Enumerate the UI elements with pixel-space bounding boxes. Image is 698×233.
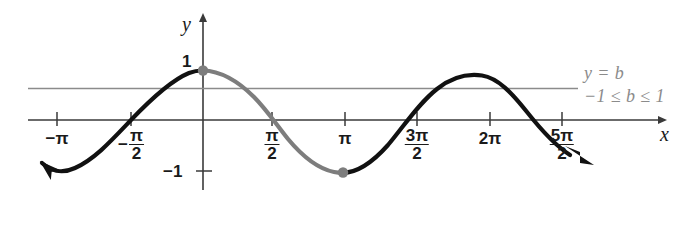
principal-end-point: [338, 167, 348, 177]
y-tick-label-negative-one: −1: [163, 163, 182, 180]
x-tick-label-neg-pi: −π: [46, 130, 69, 147]
denominator-two: 2: [264, 145, 279, 162]
principal-start-point: [198, 65, 208, 75]
minus-sign: −: [118, 136, 128, 153]
x-axis-label: x: [660, 124, 669, 144]
x-tick-label-pi: π: [338, 130, 351, 147]
x-tick-label-neg-half-pi: − π 2: [118, 127, 144, 163]
line-equation-label: y = b: [584, 64, 624, 82]
cosine-curve-right-black: [343, 75, 570, 173]
neg-half-pi-fraction: − π 2: [118, 127, 144, 163]
x-tick-label-two-pi: 2π: [479, 130, 501, 147]
numerator-pi: π: [129, 127, 144, 145]
three-half-pi-fraction: 3π 2: [405, 127, 429, 163]
numerator-five-pi: 5π: [550, 127, 574, 145]
graph-canvas: [0, 0, 698, 233]
numerator-pi: π: [264, 127, 279, 145]
x-tick-label-three-half-pi: 3π 2: [405, 127, 429, 163]
x-tick-label-half-pi: π 2: [264, 127, 279, 163]
line-range-label: −1 ≤ b ≤ 1: [584, 87, 665, 105]
denominator-two: 2: [550, 145, 574, 162]
numerator-three-pi: 3π: [405, 127, 429, 145]
five-half-pi-fraction: 5π 2: [550, 127, 574, 163]
denominator-two: 2: [405, 145, 429, 162]
x-tick-label-five-half-pi: 5π 2: [550, 127, 574, 163]
y-axis-label: y: [182, 14, 191, 34]
denominator-two: 2: [129, 145, 144, 162]
half-pi-fraction: π 2: [264, 127, 279, 163]
cosine-graph-figure: y x 1 −1 −π − π 2 π 2 π 3π 2 2π 5π 2: [0, 0, 698, 233]
y-tick-label-one: 1: [182, 53, 191, 70]
